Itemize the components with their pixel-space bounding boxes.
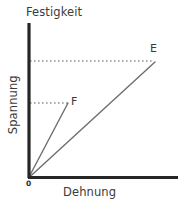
stress-strain-chart: Festigkeit Spannung Dehnung 0 E F <box>0 0 185 207</box>
series-line-E <box>29 62 156 178</box>
origin-label: 0 <box>26 180 31 188</box>
series-label-E: E <box>150 43 157 54</box>
x-axis-label: Dehnung <box>63 187 116 199</box>
chart-title: Festigkeit <box>26 7 82 19</box>
plot-canvas <box>0 0 185 207</box>
series-line-F <box>29 103 69 178</box>
series-label-F: F <box>71 96 77 107</box>
y-axis-label: Spannung <box>8 69 20 141</box>
